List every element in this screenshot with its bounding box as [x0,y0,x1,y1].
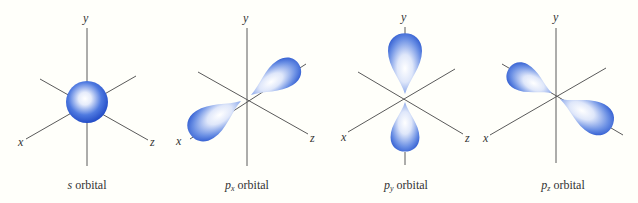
px-orbital-panel: y x z [175,11,315,166]
py-lobe-positive [388,33,422,94]
caption-text: orbital [394,178,428,192]
px-orbital-caption: px orbital [225,178,269,193]
z-axis-label: z [309,131,315,145]
y-axis-label: y [552,10,559,24]
py-lobe-negative [391,102,420,152]
s-orbital-panel: y x z [17,11,155,166]
y-axis-label: y [242,11,249,25]
s-orbital-sphere [66,81,108,123]
caption-text: orbital [550,178,584,192]
pz-orbital-caption: pz orbital [541,178,584,193]
x-axis-label: x [17,135,24,149]
z-axis-label: z [464,131,470,145]
pz-orbital-panel: y x [482,10,623,163]
z-axis-label: z [149,135,155,149]
x-axis-label: x [175,134,182,148]
x-axis-label: x [340,130,347,144]
py-orbital-panel: y x z [340,10,470,165]
caption-text: orbital [235,178,269,192]
orbitals-diagram: y x z y x z y x z [0,0,638,203]
y-axis-label: y [82,11,89,25]
x-axis-label: x [482,131,489,145]
px-lobe-negative [181,87,250,147]
s-orbital-caption: s orbital [68,178,107,193]
caption-text: orbital [72,178,106,192]
py-orbital-caption: py orbital [384,178,428,193]
pz-lobe-negative [502,57,559,105]
y-axis-label: y [400,10,407,24]
